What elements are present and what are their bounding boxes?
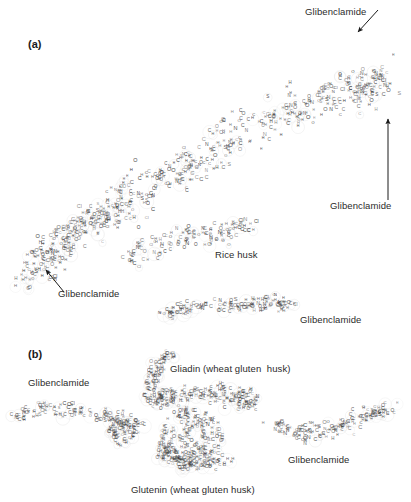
structure-label-gliadin: Gliadin (wheat gluten husk) bbox=[170, 363, 291, 374]
panel-label-b: (b) bbox=[28, 348, 42, 360]
annotation-arrow-layer bbox=[0, 0, 411, 502]
callout-label-glib-left: Glibenclamide bbox=[58, 288, 120, 299]
callout-label-glib-b-left: Glibenclamide bbox=[28, 377, 90, 388]
callout-label-glib-top-right: Glibenclamide bbox=[305, 6, 367, 17]
callout-label-glib-b-right: Glibenclamide bbox=[288, 454, 350, 465]
callout-label-glib-mid-right: Glibenclamide bbox=[300, 314, 362, 325]
structure-label-rice-husk: Rice husk bbox=[215, 249, 258, 260]
structure-label-glutenin: Glutenin (wheat gluten husk) bbox=[131, 484, 255, 495]
molecular-docking-figure: CCOHCOHSCSHOClHHCCClHHHCHHOHHHHHHSCHHHHH… bbox=[0, 0, 411, 502]
panel-label-a: (a) bbox=[28, 38, 41, 50]
callout-label-glib-right: Glibenclamide bbox=[330, 200, 392, 211]
